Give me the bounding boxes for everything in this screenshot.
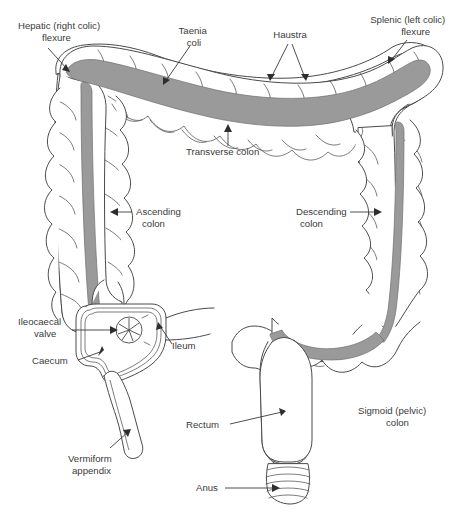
label-transverse-colon: Transverse colon xyxy=(186,146,259,157)
leader-haustra-right xyxy=(292,44,305,78)
haustra-line xyxy=(316,135,340,145)
ascending-right-contour xyxy=(116,96,135,320)
haustra-line xyxy=(150,120,174,133)
haustra-line xyxy=(282,140,306,150)
large-intestine-diagram: Hepatic (right colic) flexure Taenia col… xyxy=(0,0,459,514)
ascending-left-contour xyxy=(45,88,61,320)
caecum-shape xyxy=(76,304,166,383)
arrowhead-ascending-colon xyxy=(110,208,118,216)
label-ileum: Ileum xyxy=(172,340,195,351)
leader-haustra-left xyxy=(271,44,288,78)
label-rectum: Rectum xyxy=(186,419,219,430)
label-sigmoid-colon: Sigmoid (pelvic) colon xyxy=(358,405,429,428)
label-hepatic-flexure: Hepatic (right colic) flexure xyxy=(18,20,103,43)
label-ascending-colon: Ascending colon xyxy=(136,206,183,229)
rectum-anus-group xyxy=(260,338,312,505)
label-splenic-flexure: Splenic (left colic) flexure xyxy=(370,14,448,37)
label-haustra: Haustra xyxy=(273,29,307,40)
vermiform-appendix-shape xyxy=(104,371,143,458)
anus-shape xyxy=(267,464,310,504)
label-anus: Anus xyxy=(196,482,218,493)
label-ileocaecal-valve: Ileocaecal valve xyxy=(18,316,64,339)
arrowhead-transverse-colon xyxy=(224,124,232,132)
ileum-shape xyxy=(166,308,214,318)
caecum-group xyxy=(76,280,214,459)
haustra-line xyxy=(182,130,206,143)
label-caecum: Caecum xyxy=(32,355,68,366)
rectum-shape xyxy=(260,338,312,463)
colon-illustration: Hepatic (right colic) flexure Taenia col… xyxy=(0,0,459,514)
label-taenia-coli: Taenia coli xyxy=(179,25,210,48)
label-vermiform-appendix: Vermiform appendix xyxy=(68,453,114,476)
